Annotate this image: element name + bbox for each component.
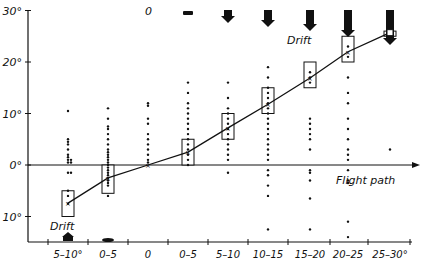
flight-path-arrow-icon xyxy=(412,162,420,168)
flight-path-label: Flight path xyxy=(336,174,395,187)
y-ticks: 30°20°10°0°10° xyxy=(3,5,32,224)
y-tick-label: 10° xyxy=(3,108,23,121)
category-label: 25–30° xyxy=(372,249,407,260)
y-tick-label: 10° xyxy=(3,211,23,224)
category-label: 0–5 xyxy=(99,249,117,260)
category-label: 20–25 xyxy=(333,249,363,260)
category-label: 0–5 xyxy=(179,249,197,260)
y-tick-label: 20° xyxy=(3,56,23,69)
category-label: 5–10 xyxy=(216,249,240,260)
category-label: 15–20 xyxy=(295,249,325,260)
chart-figure: 30°20°10°0°10° ××××××××× 5–10°0–500–55–1… xyxy=(0,0,423,264)
y-tick-label: 30° xyxy=(3,5,23,18)
drift-label-top: Drift xyxy=(287,34,312,47)
drift-label-bottom: Drift xyxy=(50,220,75,233)
category-label: 10–15 xyxy=(253,249,283,260)
category-labels: 5–10°0–500–55–1010–1515–2020–2525–30° xyxy=(53,249,407,260)
y-tick-label: 0° xyxy=(10,159,23,172)
category-label: 5–10° xyxy=(53,249,82,260)
top-zero-label: 0 xyxy=(145,5,152,18)
category-label: 0 xyxy=(145,249,151,260)
